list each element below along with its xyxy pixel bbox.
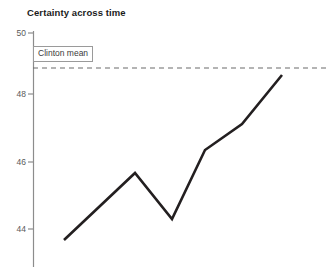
chart-container: Certainty across time 50 48 46 44 Clinto… <box>0 0 326 267</box>
y-tick-label-48: 48 <box>17 89 27 99</box>
y-tick-label-44: 44 <box>17 224 27 234</box>
chart-plot-area: 50 48 46 44 <box>0 0 326 267</box>
y-axis-ticks <box>28 33 34 229</box>
y-tick-label-50: 50 <box>17 28 27 38</box>
y-axis-tick-labels: 50 48 46 44 <box>17 28 27 234</box>
y-tick-label-46: 46 <box>17 157 27 167</box>
clinton-mean-label: Clinton mean <box>33 46 93 62</box>
certainty-line-series <box>64 75 282 240</box>
